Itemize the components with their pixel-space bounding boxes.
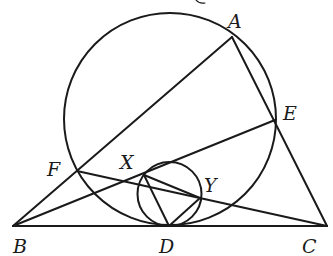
label-F: F — [47, 160, 60, 179]
clipped-glyph — [196, 0, 205, 3]
label-X: X — [120, 153, 134, 172]
diagram-canvas — [0, 0, 333, 256]
label-E: E — [283, 104, 297, 123]
label-A: A — [228, 12, 242, 31]
geometry-diagram: A E F X Y B D C — [0, 0, 333, 256]
label-C: C — [302, 237, 317, 256]
label-Y: Y — [204, 176, 217, 195]
label-D: D — [159, 237, 174, 256]
label-B: B — [13, 237, 27, 256]
segment-XY — [144, 175, 200, 198]
segment-FC — [77, 171, 327, 226]
